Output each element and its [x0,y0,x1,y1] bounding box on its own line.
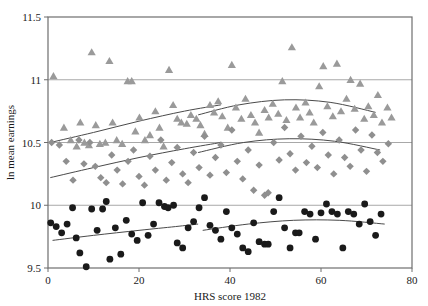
series-diamonds [48,124,392,199]
marker-diamond [319,129,326,136]
marker-triangle [306,108,314,115]
marker-diamond [124,158,131,165]
data-markers [47,43,395,270]
marker-triangle [49,72,57,79]
marker-triangle [151,107,159,114]
marker-diamond [303,159,310,166]
marker-triangle [73,142,81,149]
gridlines [48,80,412,206]
marker-triangle [370,111,378,118]
marker-circle [378,211,385,218]
marker-diamond [146,153,153,160]
marker-diamond [281,124,288,131]
marker-diamond [63,158,70,165]
marker-triangle [329,112,337,119]
chart-container: 9.51010.51111.5020406080HRS score 1982ln… [0,0,428,306]
marker-circle [106,256,113,263]
marker-triangle [383,103,391,110]
marker-circle [150,221,157,228]
marker-diamond [314,164,321,171]
marker-circle [69,204,76,211]
ytick-label-11: 11 [30,74,41,86]
marker-diamond [352,126,359,133]
marker-triangle [187,111,195,118]
marker-diamond [108,151,115,158]
marker-circle [134,237,141,244]
marker-triangle [214,97,222,104]
marker-triangle [342,95,350,102]
marker-triangle [206,101,214,108]
trendline-triangle-trend-left [50,105,221,143]
marker-triangle [105,57,113,64]
marker-circle [174,240,181,247]
marker-diamond [168,159,175,166]
marker-circle [94,227,101,234]
marker-triangle [76,119,84,126]
marker-triangle [323,102,331,109]
marker-triangle [135,114,143,121]
marker-circle [58,229,65,236]
marker-triangle [218,112,226,119]
marker-triangle [315,82,323,89]
marker-triangle [88,48,96,55]
marker-triangle [292,103,300,110]
marker-triangle [251,119,259,126]
marker-circle [196,204,203,211]
marker-circle [356,221,363,228]
marker-circle [228,224,235,231]
marker-triangle [296,114,304,121]
marker-circle [73,234,80,241]
marker-diamond [308,143,315,150]
scatter-plot: 9.51010.51111.5020406080HRS score 1982ln… [0,0,428,306]
trendline-diamond-trend-right [198,139,380,153]
marker-circle [350,211,357,218]
marker-diamond [346,163,353,170]
marker-circle [212,227,219,234]
xtick-label-0: 0 [45,274,51,286]
marker-triangle [60,124,68,131]
marker-diamond [363,168,370,175]
marker-triangle [247,111,255,118]
marker-diamond [97,174,104,181]
marker-circle [372,232,379,239]
marker-circle [223,208,230,215]
marker-circle [53,223,60,230]
marker-circle [145,232,152,239]
marker-triangle [113,136,121,143]
marker-diamond [239,175,246,182]
trend-lines [50,100,384,241]
marker-diamond [80,160,87,167]
marker-circle [307,211,314,218]
marker-triangle [278,77,286,84]
marker-circle [296,229,303,236]
marker-circle [76,250,83,257]
marker-circle [112,224,119,231]
marker-circle [323,201,330,208]
ytick-label-9.5: 9.5 [27,262,41,274]
marker-diamond [195,164,202,171]
marker-diamond [113,166,120,173]
marker-triangle [282,116,290,123]
marker-diamond [330,170,337,177]
marker-triangle [255,129,263,136]
marker-triangle [109,119,117,126]
marker-circle [312,236,319,243]
marker-circle [128,231,135,238]
marker-triangle [310,119,318,126]
marker-diamond [190,149,197,156]
marker-circle [88,206,95,213]
marker-circle [190,218,197,225]
marker-diamond [69,176,76,183]
marker-circle [83,263,90,270]
marker-circle [250,219,257,226]
marker-circle [334,211,341,218]
marker-diamond [357,146,364,153]
marker-diamond [130,146,137,153]
marker-diamond [379,158,386,165]
marker-triangle [169,101,177,108]
marker-diamond [341,154,348,161]
marker-circle [103,198,110,205]
marker-circle [276,194,283,201]
marker-diamond [141,181,148,188]
marker-diamond [201,133,208,140]
